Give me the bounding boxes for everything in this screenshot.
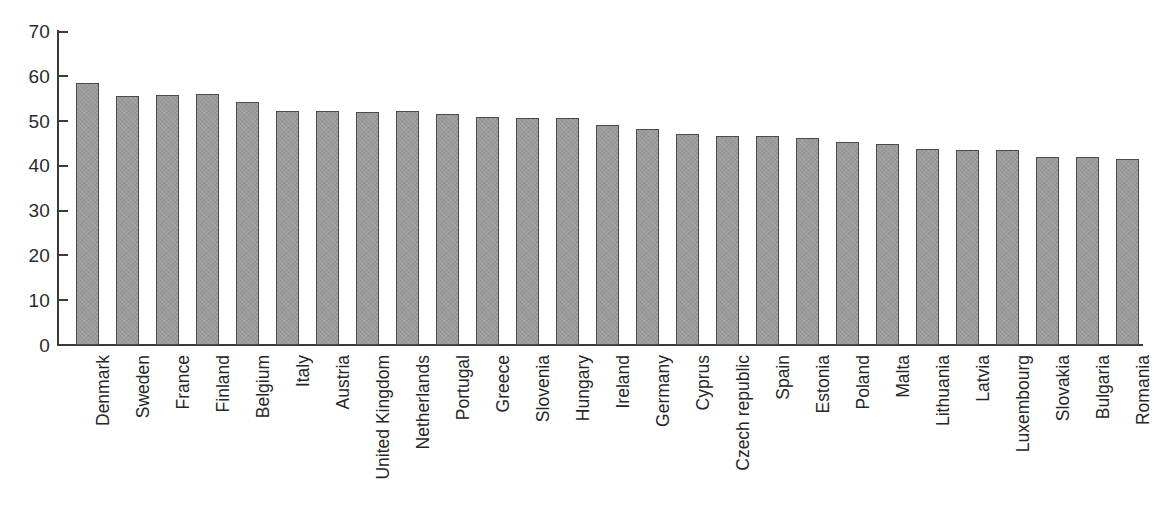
category-label: Austria — [335, 355, 353, 515]
category-label: United Kingdom — [375, 355, 393, 515]
category-label: Slovakia — [1055, 355, 1073, 515]
category-label: Finland — [215, 355, 233, 515]
bar-chart: 010203040506070 DenmarkSwedenFranceFinla… — [0, 0, 1156, 523]
category-label: Slovenia — [535, 355, 553, 515]
category-label: Cyprus — [695, 355, 713, 515]
y-axis-tick — [59, 165, 68, 167]
category-label: Netherlands — [415, 355, 433, 515]
category-label: Belgium — [255, 355, 273, 515]
y-axis-tick — [59, 254, 68, 256]
category-label: Estonia — [815, 355, 833, 515]
category-label: Malta — [895, 355, 913, 515]
category-label: Denmark — [95, 355, 113, 515]
category-label: Italy — [295, 355, 313, 515]
y-axis-tick — [59, 31, 68, 33]
category-labels-layer: DenmarkSwedenFranceFinlandBelgiumItalyAu… — [0, 0, 1156, 523]
category-label: Portugal — [455, 355, 473, 515]
y-axis-tick — [59, 120, 68, 122]
category-label: Hungary — [575, 355, 593, 515]
category-label: Lithuania — [935, 355, 953, 515]
category-label: Latvia — [975, 355, 993, 515]
category-label: Sweden — [135, 355, 153, 515]
y-axis-tick — [59, 299, 68, 301]
category-label: Luxembourg — [1015, 355, 1033, 515]
category-label: Poland — [855, 355, 873, 515]
category-label: Greece — [495, 355, 513, 515]
y-axis-tick — [59, 75, 68, 77]
y-axis-tick — [59, 210, 68, 212]
category-label: Bulgaria — [1095, 355, 1113, 515]
category-label: Romania — [1135, 355, 1153, 515]
category-label: Spain — [775, 355, 793, 515]
category-label: Czech republic — [735, 355, 753, 515]
category-label: Germany — [655, 355, 673, 515]
category-label: France — [175, 355, 193, 515]
category-label: Ireland — [615, 355, 633, 515]
